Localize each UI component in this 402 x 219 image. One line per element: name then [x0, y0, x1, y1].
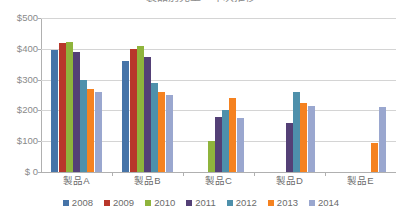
y-axis-label: $400 [2, 44, 38, 54]
bar[interactable] [144, 57, 151, 172]
bar[interactable] [158, 92, 165, 172]
legend-item[interactable]: 2014 [309, 198, 339, 208]
bar[interactable] [371, 143, 378, 172]
bar[interactable] [300, 103, 307, 172]
bar[interactable] [237, 118, 244, 172]
legend-label: 2011 [195, 198, 215, 208]
bar[interactable] [293, 92, 300, 172]
bar[interactable] [87, 89, 94, 172]
legend-swatch-icon [104, 200, 110, 206]
bar[interactable] [229, 98, 236, 172]
legend-swatch-icon [227, 200, 233, 206]
bar[interactable] [122, 61, 129, 172]
x-axis-category-label: 製品A [41, 175, 112, 187]
bar[interactable] [95, 92, 102, 172]
x-axis-category-label: 製品D [254, 175, 325, 187]
legend-item[interactable]: 2008 [63, 198, 93, 208]
bar[interactable] [51, 50, 58, 172]
legend-item[interactable]: 2013 [268, 198, 298, 208]
plot-area [41, 18, 396, 172]
x-axis-tick [183, 172, 184, 176]
y-axis-label: $100 [2, 136, 38, 146]
bar[interactable] [66, 42, 73, 172]
y-axis-label: $300 [2, 75, 38, 85]
legend-swatch-icon [309, 200, 315, 206]
x-axis-tick [254, 172, 255, 176]
y-axis-label: $ 0 [2, 167, 38, 177]
bar[interactable] [151, 83, 158, 172]
legend-item[interactable]: 2011 [186, 198, 215, 208]
bar[interactable] [130, 49, 137, 172]
y-axis-tick [38, 18, 41, 19]
bar[interactable] [80, 80, 87, 172]
legend-swatch-icon [268, 200, 274, 206]
bar[interactable] [166, 95, 173, 172]
bar[interactable] [222, 110, 229, 172]
bar[interactable] [286, 123, 293, 172]
gridline [41, 18, 396, 19]
legend-swatch-icon [186, 200, 192, 206]
bar[interactable] [215, 117, 222, 172]
legend-item[interactable]: 2009 [104, 198, 134, 208]
x-axis-tick [112, 172, 113, 176]
legend-label: 2008 [72, 198, 93, 208]
gridline [41, 49, 396, 50]
chart-legend: 2008200920102011201220132014 [0, 198, 402, 208]
legend-label: 2013 [277, 198, 298, 208]
x-axis-category-label: 製品B [112, 175, 183, 187]
bar[interactable] [137, 46, 144, 172]
legend-swatch-icon [145, 200, 151, 206]
legend-label: 2012 [236, 198, 257, 208]
gridline [41, 80, 396, 81]
x-axis-line [41, 172, 396, 173]
bar[interactable] [379, 107, 386, 172]
legend-item[interactable]: 2012 [227, 198, 257, 208]
x-axis-tick [325, 172, 326, 176]
y-axis-label: $500 [2, 13, 38, 23]
y-axis-tick [38, 141, 41, 142]
bar-chart: 製品別売上 年次推移 製品A製品B製品C製品D製品E 2008200920102… [0, 0, 402, 219]
y-axis-tick [38, 80, 41, 81]
legend-swatch-icon [63, 200, 69, 206]
y-axis-tick [38, 172, 41, 173]
legend-label: 2010 [154, 198, 175, 208]
y-axis-tick [38, 49, 41, 50]
bar[interactable] [59, 43, 66, 172]
y-axis-tick [38, 110, 41, 111]
y-axis-label: $200 [2, 105, 38, 115]
x-axis-category-label: 製品E [325, 175, 396, 187]
legend-label: 2009 [113, 198, 134, 208]
bar[interactable] [208, 141, 215, 172]
chart-title: 製品別売上 年次推移 [0, 0, 402, 3]
x-axis-category-label: 製品C [183, 175, 254, 187]
legend-item[interactable]: 2010 [145, 198, 175, 208]
bar[interactable] [308, 106, 315, 172]
legend-label: 2014 [318, 198, 339, 208]
bar[interactable] [73, 52, 80, 172]
